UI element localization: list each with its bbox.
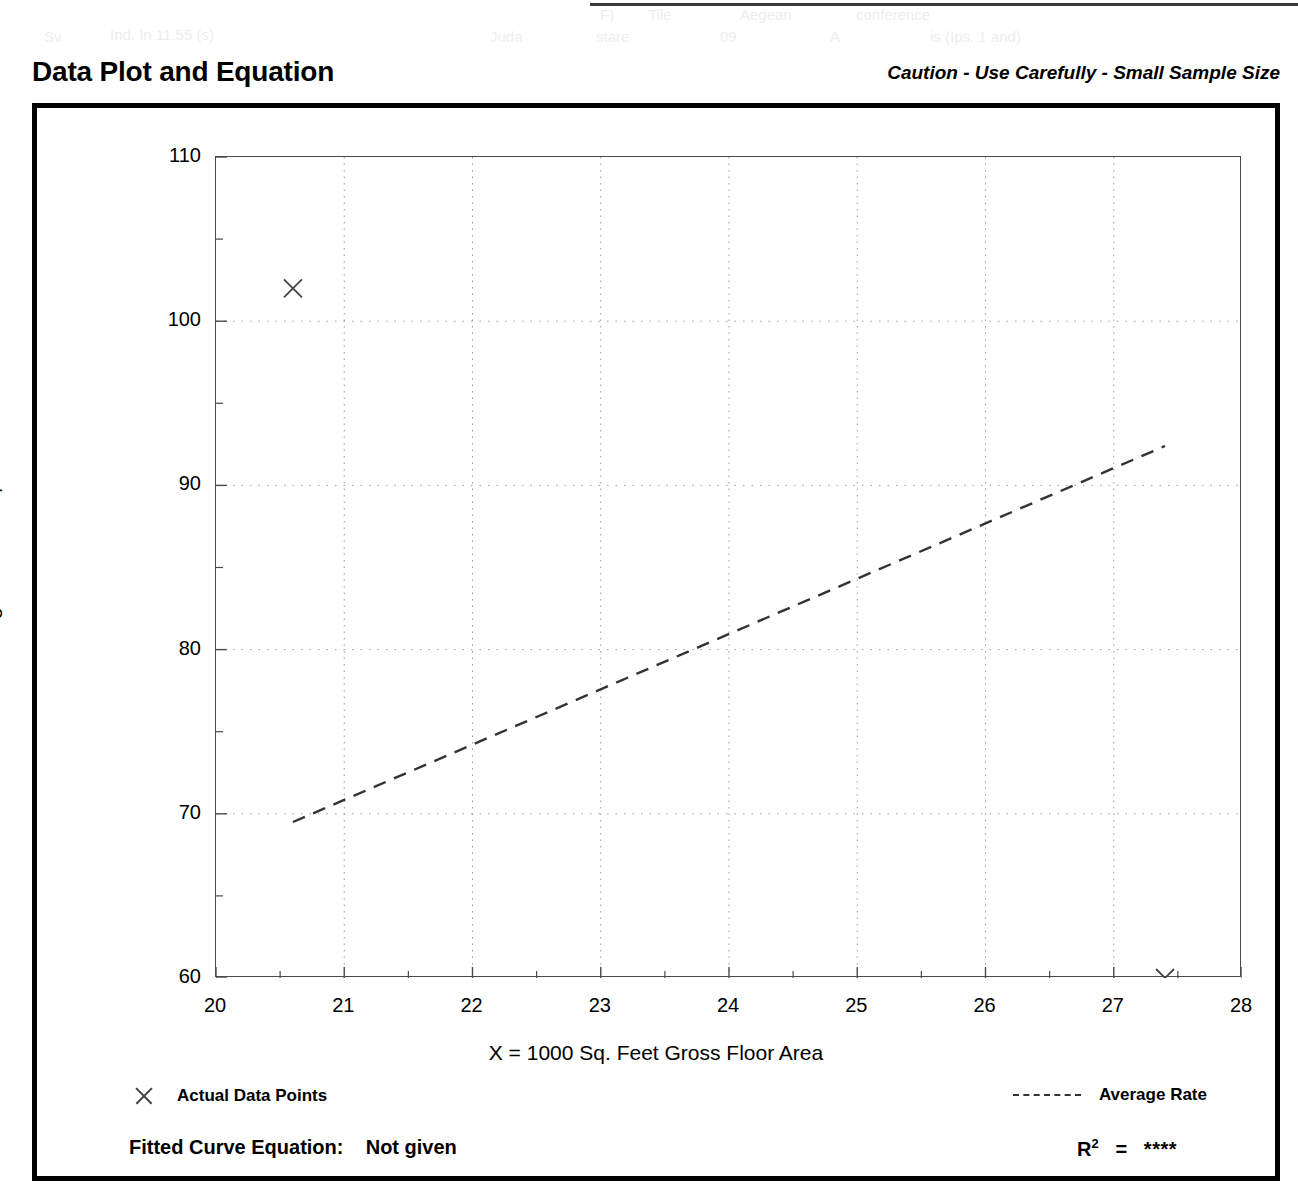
y-tick-label: 100 bbox=[131, 309, 201, 329]
y-axis-title: T = Average Vehicle Trip Ends bbox=[0, 358, 3, 778]
scan-artifact-text: A bbox=[830, 28, 840, 45]
plot-area bbox=[215, 156, 1241, 977]
x-tick-label: 22 bbox=[437, 995, 507, 1015]
r-squared-value: **** bbox=[1144, 1138, 1177, 1160]
page-title: Data Plot and Equation bbox=[32, 56, 334, 88]
y-tick-label: 90 bbox=[131, 473, 201, 493]
legend-label-average-rate: Average Rate bbox=[1099, 1085, 1207, 1105]
x-axis-title: X = 1000 Sq. Feet Gross Floor Area bbox=[37, 1041, 1275, 1065]
legend-item-data-points: Actual Data Points bbox=[133, 1085, 327, 1107]
r-squared-exponent: 2 bbox=[1092, 1136, 1099, 1151]
y-tick-label: 70 bbox=[131, 802, 201, 822]
header: Data Plot and Equation Caution - Use Car… bbox=[0, 56, 1298, 96]
fitted-curve-equation: Fitted Curve Equation: Not given bbox=[129, 1136, 457, 1159]
legend-label-data-points: Actual Data Points bbox=[177, 1086, 327, 1106]
fitted-curve-label: Fitted Curve Equation: bbox=[129, 1136, 343, 1158]
scan-artifact-text: 09 bbox=[720, 28, 737, 45]
scan-artifact-text: F) bbox=[600, 6, 614, 23]
scan-artifact-text: is (Ips. 1 and) bbox=[930, 28, 1021, 45]
scan-artifact-text: conference bbox=[856, 6, 930, 23]
x-tick-label: 21 bbox=[308, 995, 378, 1015]
gridlines bbox=[216, 157, 1242, 978]
x-tick-label: 27 bbox=[1078, 995, 1148, 1015]
scan-artifact-text: Tile bbox=[648, 6, 672, 23]
plot-canvas bbox=[216, 157, 1242, 978]
x-marker-icon bbox=[133, 1085, 155, 1107]
fitted-curve-value: Not given bbox=[366, 1136, 457, 1158]
x-tick-label: 20 bbox=[180, 995, 250, 1015]
x-tick-label: 24 bbox=[693, 995, 763, 1015]
x-tick-label: 25 bbox=[821, 995, 891, 1015]
dashed-line-icon bbox=[1013, 1094, 1081, 1096]
top-horizontal-rule bbox=[590, 3, 1298, 6]
r-squared-equals: = bbox=[1115, 1138, 1127, 1160]
legend-item-average-rate: Average Rate bbox=[1013, 1085, 1207, 1105]
y-tick-label: 80 bbox=[131, 638, 201, 658]
y-tick-label: 60 bbox=[131, 966, 201, 986]
equation-row: Fitted Curve Equation: Not given R2 = **… bbox=[37, 1136, 1275, 1176]
x-tick-label: 23 bbox=[565, 995, 635, 1015]
scan-artifact-text: Ind. In 11.55 (s) bbox=[110, 26, 214, 43]
scan-artifact-text: stare bbox=[596, 28, 629, 45]
scan-artifact-text: Sv bbox=[44, 28, 62, 45]
legend: Actual Data Points Average Rate bbox=[37, 1085, 1275, 1125]
scan-artifact-text: Juda bbox=[490, 28, 523, 45]
scan-artifact-text: Aegean bbox=[740, 6, 792, 23]
caution-note: Caution - Use Carefully - Small Sample S… bbox=[887, 62, 1280, 84]
plot-wrapper: T = Average Vehicle Trip Ends 6070809010… bbox=[37, 108, 1275, 1176]
x-tick-label: 26 bbox=[950, 995, 1020, 1015]
chart-panel: T = Average Vehicle Trip Ends 6070809010… bbox=[32, 103, 1280, 1181]
r-squared-label: R bbox=[1077, 1138, 1091, 1160]
x-tick-label: 28 bbox=[1206, 995, 1276, 1015]
r-squared-statistic: R2 = **** bbox=[1077, 1136, 1177, 1161]
y-tick-label: 110 bbox=[131, 145, 201, 165]
scan-artifacts: F)TileAegeanconferenceSvInd. In 11.55 (s… bbox=[0, 0, 1298, 50]
